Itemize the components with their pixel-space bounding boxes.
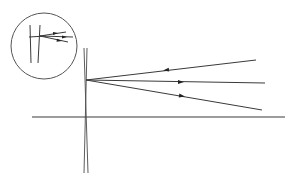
ray-upper xyxy=(86,60,256,80)
inset-lens-edge-right xyxy=(38,25,40,63)
rays xyxy=(86,60,265,110)
diagram-canvas xyxy=(0,0,294,186)
inset-lens-edge-left xyxy=(30,25,31,63)
inset-circle xyxy=(11,13,77,79)
lens-ray-diagram xyxy=(0,0,294,186)
arrow-right-icon xyxy=(178,80,184,84)
inset-arrow-middle-icon xyxy=(62,36,67,39)
ray-middle xyxy=(86,80,265,83)
thin-lens xyxy=(84,48,88,173)
magnified-inset xyxy=(11,13,77,79)
ray-lower xyxy=(86,80,262,110)
